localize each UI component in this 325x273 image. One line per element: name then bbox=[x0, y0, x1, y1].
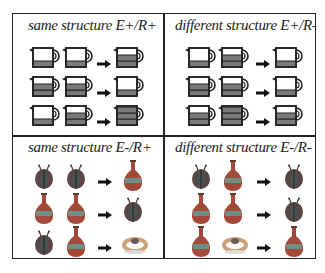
right-arrow-icon bbox=[257, 238, 271, 246]
right-arrow-icon bbox=[256, 83, 270, 91]
right-arrow-icon bbox=[98, 205, 112, 213]
ladybug-icon bbox=[190, 164, 212, 194]
panel-title-same-structure-eminus-rplus: same structure E-/R+ bbox=[28, 139, 152, 156]
ladybug-icon bbox=[33, 230, 55, 260]
result-cup-icon bbox=[271, 75, 305, 103]
cup-icon bbox=[184, 46, 218, 74]
right-arrow-icon bbox=[97, 54, 111, 62]
horizontal-divider bbox=[12, 135, 316, 137]
vase-icon bbox=[65, 193, 87, 229]
right-arrow-icon bbox=[256, 54, 270, 62]
cup-icon bbox=[28, 104, 62, 132]
right-arrow-icon bbox=[257, 172, 271, 180]
panel-title-different-structure-eminus-rminus: different structure E-/R- bbox=[175, 139, 311, 156]
result-vase-icon bbox=[283, 226, 305, 262]
vase-icon bbox=[190, 226, 212, 262]
result-cup-icon bbox=[112, 46, 146, 74]
cup-icon bbox=[184, 75, 218, 103]
right-arrow-icon bbox=[97, 83, 111, 91]
result-ladybug-icon bbox=[283, 197, 305, 227]
vase-icon bbox=[190, 193, 212, 229]
vase-icon bbox=[65, 226, 87, 262]
vase-icon bbox=[33, 193, 55, 229]
cup-icon bbox=[28, 75, 62, 103]
result-ladybug-icon bbox=[283, 164, 305, 194]
vase-icon bbox=[222, 160, 244, 196]
result-cup-icon bbox=[271, 104, 305, 132]
right-arrow-icon bbox=[257, 205, 271, 213]
right-arrow-icon bbox=[98, 238, 112, 246]
panel-title-different-structure-eplus-rminus: different structure E+/R- bbox=[175, 17, 316, 34]
cup-icon bbox=[61, 75, 95, 103]
result-cup-icon bbox=[112, 75, 146, 103]
result-cup-icon bbox=[112, 104, 146, 132]
ring-icon bbox=[222, 234, 248, 260]
result-ring-icon bbox=[122, 234, 148, 260]
cup-icon bbox=[217, 75, 251, 103]
result-ladybug-icon bbox=[122, 197, 144, 227]
right-arrow-icon bbox=[98, 172, 112, 180]
panel-title-same-structure-eplus-rplus: same structure E+/R+ bbox=[28, 17, 157, 34]
cup-icon bbox=[61, 104, 95, 132]
ladybug-icon bbox=[33, 164, 55, 194]
cup-icon bbox=[217, 46, 251, 74]
result-vase-icon bbox=[122, 160, 144, 196]
cup-icon bbox=[61, 46, 95, 74]
vase-icon bbox=[222, 193, 244, 229]
cup-icon bbox=[184, 104, 218, 132]
result-cup-icon bbox=[271, 46, 305, 74]
ladybug-icon bbox=[65, 164, 87, 194]
cup-icon bbox=[217, 104, 251, 132]
right-arrow-icon bbox=[97, 112, 111, 120]
cup-icon bbox=[28, 46, 62, 74]
right-arrow-icon bbox=[256, 112, 270, 120]
